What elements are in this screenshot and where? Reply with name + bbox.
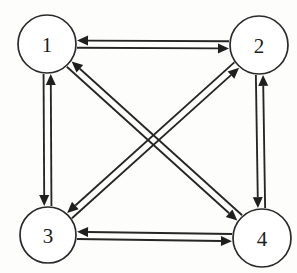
edge-line-e-3-4 bbox=[77, 239, 221, 241]
arrow-head-1-to-3 bbox=[39, 195, 49, 206]
edge-line-e-1-3 bbox=[44, 74, 45, 195]
arrow-head-2-to-1 bbox=[77, 36, 88, 46]
nodes-layer: 1234 bbox=[18, 15, 291, 267]
node-2[interactable]: 2 bbox=[230, 16, 288, 74]
node-3[interactable]: 3 bbox=[20, 207, 76, 263]
arrow-head-4-to-2 bbox=[258, 75, 268, 86]
edge-line-e-2-3 bbox=[75, 62, 234, 205]
arrow-head-3-to-4 bbox=[221, 236, 232, 246]
arrow-head-3-to-1 bbox=[46, 74, 56, 85]
edge-line-e-1-4 bbox=[80, 69, 242, 215]
edge-line-e-1-3 bbox=[51, 85, 52, 206]
arrow-head-1-to-2 bbox=[218, 43, 229, 53]
node-4[interactable]: 4 bbox=[233, 209, 291, 267]
edge-line-e-2-4 bbox=[263, 86, 265, 208]
edge-line-e-2-3 bbox=[72, 75, 231, 218]
node-label-2: 2 bbox=[254, 34, 265, 58]
node-label-3: 3 bbox=[43, 224, 54, 248]
node-label-4: 4 bbox=[257, 227, 268, 251]
arrow-head-4-to-3 bbox=[77, 227, 88, 237]
edge-line-e-3-4 bbox=[88, 232, 232, 234]
edge-line-e-1-2 bbox=[77, 48, 218, 49]
graph-figure: 1234 bbox=[0, 0, 297, 273]
arrow-head-2-to-4 bbox=[253, 197, 263, 208]
node-label-1: 1 bbox=[42, 33, 53, 57]
node-1[interactable]: 1 bbox=[18, 15, 76, 73]
graph-canvas: 1234 bbox=[0, 0, 297, 273]
arrows-layer bbox=[39, 36, 268, 246]
edge-line-e-1-2 bbox=[88, 41, 229, 42]
edge-line-e-2-4 bbox=[256, 75, 258, 197]
